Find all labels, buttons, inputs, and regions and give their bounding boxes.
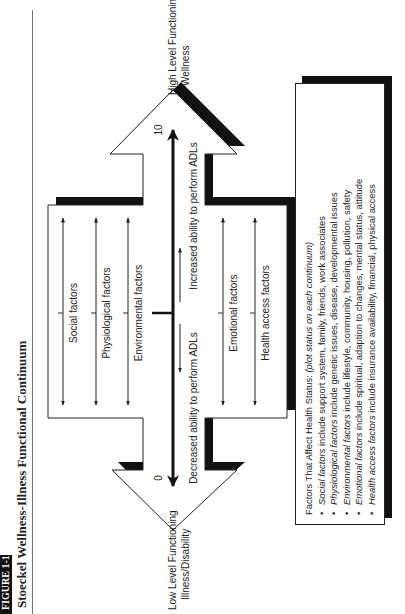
label-wellness: Wellness <box>180 46 191 86</box>
legend-heading-note: (plot status on each continuum) <box>303 242 314 373</box>
label-emotional-factors: Emotional factors <box>228 274 239 351</box>
legend-item-health-access: •Health access factors include insurance… <box>366 93 379 515</box>
label-health-access-factors: Health access factors <box>260 265 271 361</box>
legend-desc: include spiritual, adaption to changes, … <box>353 179 364 433</box>
legend-desc: include genetic issues, disease, develop… <box>328 192 339 419</box>
label-physiological-factors: Physiological factors <box>101 267 112 358</box>
legend-term: Environmental factors <box>341 414 352 505</box>
legend-heading-text: Factors That Affect Health Status: <box>303 373 314 515</box>
legend-item-social: •Social factors include support system, … <box>316 93 329 515</box>
label-social-factors: Social factors <box>68 283 79 343</box>
label-high-level-functioning: High Level Functioning <box>167 0 178 95</box>
bullet-icon: • <box>328 505 341 515</box>
legend-desc: include lifestyle, community, housing, p… <box>341 190 352 414</box>
scale-min: 0 <box>153 475 164 481</box>
bullet-icon: • <box>316 505 329 515</box>
legend-heading: Factors That Affect Health Status: (plot… <box>303 93 316 515</box>
legend-desc: include insurance availability, financia… <box>366 184 377 415</box>
label-increased-adl: Increased ability to perform ADLs <box>188 142 199 289</box>
legend-item-emotional: •Emotional factors include spiritual, ad… <box>353 93 366 515</box>
bullet-icon: • <box>366 505 379 515</box>
legend-term: Emotional factors <box>353 433 364 505</box>
legend-term: Physiological factors <box>328 420 339 505</box>
double-arrow-shape <box>48 90 287 530</box>
legend-term: Social factors <box>316 449 327 505</box>
factors-legend-box: Factors That Affect Health Status: (plot… <box>295 83 385 525</box>
legend-desc: include support system, family, friends,… <box>316 216 327 449</box>
scale-max: 10 <box>153 124 164 135</box>
legend-term: Health access factors <box>366 415 377 505</box>
label-illness-disability: Illness/Disability <box>180 529 191 600</box>
bullet-icon: • <box>353 505 366 515</box>
legend-item-environmental: •Environmental factors include lifestyle… <box>341 93 354 515</box>
rotated-figure-page: FIGURE 1-1 Stoeckel Wellness-Illness Fun… <box>0 0 405 614</box>
legend-item-physiological: •Physiological factors include genetic i… <box>328 93 341 515</box>
bullet-icon: • <box>341 505 354 515</box>
label-low-level-functioning: Low Level Functioning <box>167 510 178 610</box>
label-environmental-factors: Environmental factors <box>133 265 144 362</box>
label-decreased-adl: Decreased ability to perform ADLs <box>188 332 199 484</box>
